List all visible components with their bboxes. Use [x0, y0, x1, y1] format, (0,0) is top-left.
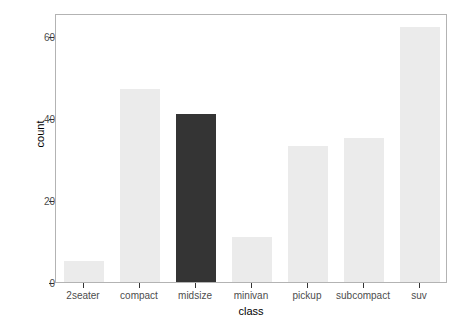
bar-subcompact[interactable]: [344, 138, 383, 282]
x-tick-mark: [251, 283, 252, 288]
y-tick-mark: [49, 119, 54, 120]
x-tick-mark: [307, 283, 308, 288]
y-tick-mark: [49, 283, 54, 284]
bars-layer: [56, 15, 446, 282]
y-tick-mark: [49, 37, 54, 38]
y-axis: 0204060: [0, 0, 55, 325]
bar-chart: count 0204060 2seatercompactmidsizeminiv…: [0, 0, 466, 325]
y-tick-mark: [49, 201, 54, 202]
plot-panel: [55, 14, 447, 283]
x-tick-label-midsize: midsize: [178, 290, 212, 301]
x-tick-label-minivan: minivan: [234, 290, 268, 301]
x-tick-mark: [363, 283, 364, 288]
x-axis-title: class: [55, 305, 447, 317]
x-tick-label-pickup: pickup: [293, 290, 322, 301]
x-tick-label-subcompact: subcompact: [336, 290, 390, 301]
x-tick-label-suv: suv: [411, 290, 427, 301]
x-tick-mark: [419, 283, 420, 288]
x-tick-mark: [83, 283, 84, 288]
bar-suv[interactable]: [400, 27, 439, 282]
x-tick-mark: [139, 283, 140, 288]
bar-compact[interactable]: [120, 89, 159, 282]
bar-pickup[interactable]: [288, 146, 327, 282]
x-tick-label-2seater: 2seater: [66, 290, 99, 301]
bar-minivan[interactable]: [232, 237, 271, 282]
x-tick-label-compact: compact: [120, 290, 158, 301]
bar-midsize[interactable]: [176, 114, 215, 282]
bar-2seater[interactable]: [64, 261, 103, 282]
x-tick-mark: [195, 283, 196, 288]
